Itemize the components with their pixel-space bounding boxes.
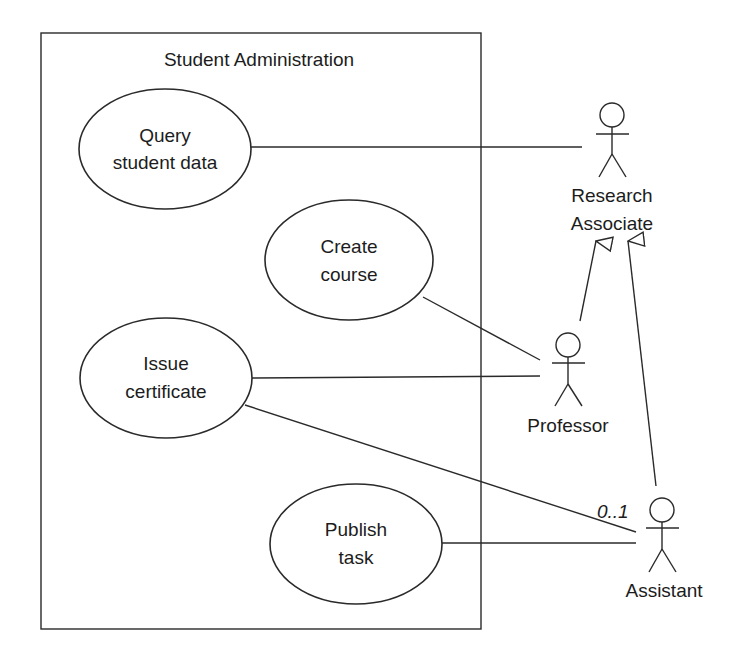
stick-figure-icon	[596, 103, 629, 177]
use-case-label: Create	[320, 236, 377, 257]
use-case-issue-certificate[interactable]: Issue certificate	[80, 318, 252, 438]
stick-figure-icon	[646, 498, 679, 572]
stick-figure-icon	[552, 333, 585, 406]
use-case-label: Query	[139, 125, 191, 146]
use-case-label: Issue	[143, 353, 188, 374]
actor-label: Professor	[527, 415, 609, 436]
actor-label: Associate	[571, 213, 653, 234]
use-case-create-course[interactable]: Create course	[265, 200, 433, 320]
use-case-publish-task[interactable]: Publish task	[270, 484, 442, 604]
actor-research-associate[interactable]: Research Associate	[571, 103, 653, 234]
use-case-label: course	[320, 264, 377, 285]
association-issue-professor[interactable]	[252, 376, 540, 378]
use-case-label: task	[339, 547, 374, 568]
use-case-query-student-data[interactable]: Query student data	[79, 89, 251, 209]
multiplicity-label: 0..1	[597, 501, 629, 522]
use-case-diagram: Student Administration 0..1 Query studen…	[0, 0, 752, 647]
actor-professor[interactable]: Professor	[527, 333, 609, 436]
actor-label: Research	[571, 185, 652, 206]
system-title: Student Administration	[164, 49, 354, 70]
generalization-professor-research[interactable]	[580, 241, 596, 321]
use-case-label: certificate	[125, 381, 206, 402]
actor-assistant[interactable]: Assistant	[625, 498, 703, 601]
use-case-label: Publish	[325, 519, 387, 540]
use-case-label: student data	[113, 152, 218, 173]
actor-label: Assistant	[625, 580, 703, 601]
generalization-assistant-research[interactable]	[628, 241, 656, 486]
